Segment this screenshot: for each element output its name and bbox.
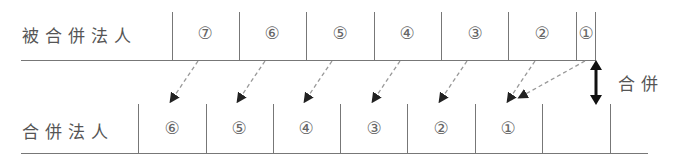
arrows-layer [0,0,685,162]
carryover-arrow [373,61,400,101]
carryover-arrow [508,61,535,101]
carryover-arrow [238,61,265,101]
merger-double-arrow [590,60,602,105]
carryover-arrow [171,61,198,101]
carryover-arrow [305,61,332,101]
carryover-arrow [440,61,467,101]
carryover-arrow [522,61,585,96]
